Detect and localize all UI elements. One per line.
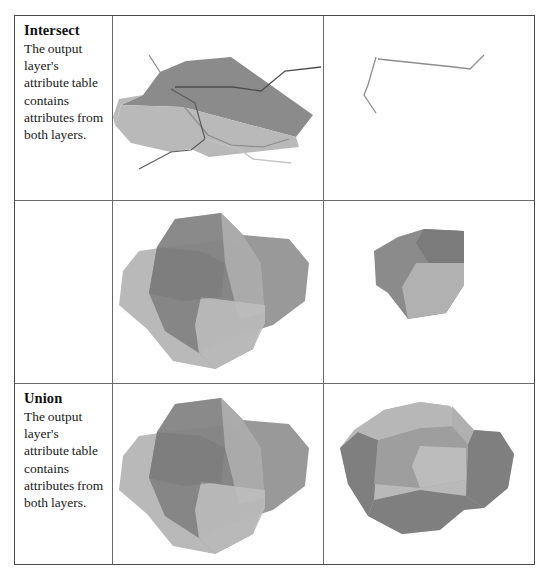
panel-intersect-input [113, 17, 323, 200]
intersect-description: The output layer's attribute table conta… [24, 40, 104, 143]
panel-intersect-input-polygons [113, 201, 323, 383]
union-result-dark-left-lobe [340, 432, 378, 516]
panel-union-output-polygons [324, 384, 534, 565]
union-title: Union [24, 390, 104, 407]
intersect-input-graphic [113, 17, 323, 200]
panel-intersect-output-polygons [324, 201, 534, 383]
union-output-polygons-graphic [324, 384, 534, 565]
intersect-output-lines-graphic [324, 17, 534, 200]
polygon-facet-light-lower [195, 297, 265, 369]
intersect-output-polygons-graphic [324, 201, 534, 383]
overlay-operations-table: Intersect The output layer's attribute t… [14, 15, 535, 565]
result-line-horizontal [378, 55, 484, 69]
union-facet-light-lower [195, 482, 265, 554]
union-description-cell: Union The output layer's attribute table… [15, 384, 112, 511]
result-line-vertical [364, 57, 376, 113]
intersect-description-cell: Intersect The output layer's attribute t… [15, 16, 112, 143]
union-result-dark-right-lobe [466, 430, 514, 508]
figure-page: Intersect The output layer's attribute t… [0, 0, 551, 580]
intersect-title: Intersect [24, 22, 104, 39]
result-intersection-light-lobe [402, 263, 464, 319]
union-input-polygons-graphic [113, 384, 323, 565]
intersect-input-polygons-graphic [113, 201, 323, 383]
union-description: The output layer's attribute table conta… [24, 408, 104, 511]
panel-intersect-output-lines [324, 17, 534, 200]
panel-union-input-polygons [113, 384, 323, 565]
